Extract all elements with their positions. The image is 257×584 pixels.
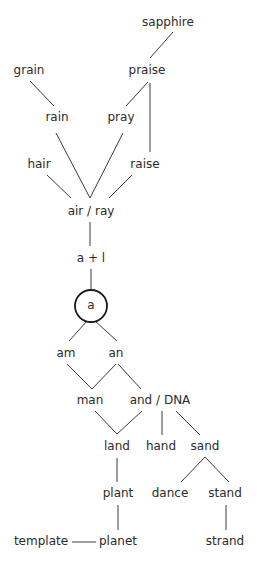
edges (30, 32, 229, 542)
edge-sand-stand (205, 457, 229, 482)
nodes: sapphire grain praise rain pray hair rai… (14, 15, 245, 548)
node-hand: hand (146, 439, 176, 453)
node-air-ray: air / ray (68, 204, 115, 218)
edge-an-and (118, 364, 141, 389)
node-template: template (14, 534, 68, 548)
edge-man-land (95, 411, 117, 434)
node-rain: rain (45, 110, 68, 124)
edge-root-am (69, 321, 87, 341)
node-an: an (109, 346, 124, 360)
edge-dna-sand (176, 411, 200, 435)
node-hair: hair (27, 157, 50, 171)
node-dance: dance (152, 486, 189, 500)
node-plant: plant (103, 486, 134, 500)
node-root-a: a (87, 298, 94, 312)
edge-raise-ray (109, 175, 132, 198)
node-grain: grain (14, 63, 45, 77)
node-planet: planet (99, 534, 137, 548)
node-pray: pray (107, 110, 134, 124)
node-and-dna: and / DNA (130, 393, 191, 407)
edge-an-man (92, 364, 116, 389)
node-stand: stand (208, 486, 242, 500)
edge-sand-dance (181, 457, 205, 482)
node-man: man (77, 393, 104, 407)
node-sand: sand (191, 439, 220, 453)
edge-hair-air (47, 175, 71, 198)
edge-root-an (95, 321, 117, 341)
node-praise: praise (129, 63, 166, 77)
node-am: am (56, 346, 75, 360)
node-raise: raise (130, 157, 159, 171)
edge-sapphire-praise (150, 32, 173, 58)
node-land: land (104, 439, 130, 453)
edge-grain-rain (30, 81, 54, 106)
edge-and-land (117, 411, 142, 434)
word-tree-diagram: sapphire grain praise rain pray hair rai… (0, 0, 257, 584)
node-strand: strand (206, 534, 244, 548)
edge-praise-pray (126, 82, 148, 106)
edge-am-man (67, 364, 92, 389)
node-sapphire: sapphire (142, 15, 194, 29)
node-a-plus-l: a + l (77, 251, 105, 265)
